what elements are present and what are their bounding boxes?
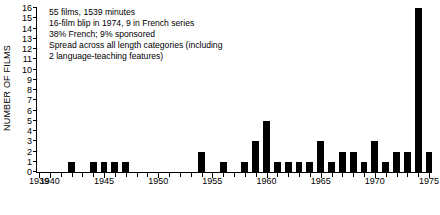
x-axis-tick-label: 1975 <box>419 176 439 186</box>
bar <box>252 141 259 172</box>
x-axis-tick-labels: 193919401945195019551960196519701975 <box>36 176 436 190</box>
bar <box>426 152 433 173</box>
bar <box>306 162 313 172</box>
y-axis-tick-mark <box>33 17 37 18</box>
y-axis-tick-label: 14 <box>14 24 32 33</box>
y-axis-tick-label: 10 <box>14 65 32 74</box>
y-axis-tick-label: 7 <box>14 96 32 105</box>
bar <box>122 162 129 172</box>
bar <box>404 152 411 173</box>
y-axis-tick-mark <box>33 151 37 152</box>
annotation-text-block: 55 films, 1539 minutes16-film blip in 19… <box>49 7 299 62</box>
bar <box>285 162 292 172</box>
y-axis-tick-label: 6 <box>14 106 32 115</box>
y-axis-tick-labels: 161514131211109876543210 <box>14 8 32 173</box>
bar <box>328 162 335 172</box>
y-axis-tick-label: 15 <box>14 14 32 23</box>
y-axis-tick-mark <box>33 7 37 8</box>
y-axis-tick-label: 13 <box>14 34 32 43</box>
bar <box>274 162 281 172</box>
x-axis-tick-label: 1965 <box>311 176 331 186</box>
annotation-line: Spread across all length categories (inc… <box>49 40 299 51</box>
bar <box>220 162 227 172</box>
y-axis-tick-mark <box>33 79 37 80</box>
bar <box>263 121 270 172</box>
bar <box>101 162 108 172</box>
annotation-line: 38% French; 9% sponsored <box>49 29 299 40</box>
y-axis-tick-label: 11 <box>14 55 32 64</box>
y-axis-tick-label: 3 <box>14 137 32 146</box>
bar <box>111 162 118 172</box>
y-axis-tick-label: 5 <box>14 116 32 125</box>
y-axis-tick-mark <box>33 120 37 121</box>
y-axis-tick-mark <box>33 28 37 29</box>
annotation-line: 55 films, 1539 minutes <box>49 7 299 18</box>
bar <box>361 162 368 172</box>
y-axis-tick-mark <box>33 99 37 100</box>
bar <box>198 152 205 173</box>
y-axis-title-label: NUMBER OF FILMS <box>2 44 12 130</box>
x-axis-tick-label: 1950 <box>148 176 168 186</box>
y-axis-tick-mark <box>33 69 37 70</box>
y-axis-title: NUMBER OF FILMS <box>0 0 14 175</box>
x-axis-tick-label: 1970 <box>365 176 385 186</box>
y-axis-tick-mark <box>33 161 37 162</box>
x-axis-tick-label: 1940 <box>40 176 60 186</box>
bar <box>393 152 400 173</box>
bar <box>350 152 357 173</box>
bar <box>371 141 378 172</box>
bar <box>296 162 303 172</box>
x-axis-tick-label: 1955 <box>202 176 222 186</box>
x-axis-tick-label: 1960 <box>256 176 276 186</box>
bar <box>68 162 75 172</box>
bar <box>415 8 422 172</box>
y-axis-tick-mark <box>33 38 37 39</box>
annotation-line: 16-film blip in 1974, 9 in French series <box>49 18 299 29</box>
y-axis-tick-mark <box>33 48 37 49</box>
bar-chart-figure: NUMBER OF FILMS 161514131211109876543210… <box>0 0 440 215</box>
y-axis-line <box>36 8 37 173</box>
bar <box>90 162 97 172</box>
y-axis-tick-label: 9 <box>14 75 32 84</box>
bar <box>382 162 389 172</box>
y-axis-tick-mark <box>33 171 37 172</box>
bar <box>241 162 248 172</box>
annotation-line: 2 language-teaching features) <box>49 51 299 62</box>
y-axis-tick-label: 16 <box>14 4 32 13</box>
y-axis-tick-mark <box>33 130 37 131</box>
x-axis-tick-label: 1945 <box>94 176 114 186</box>
y-axis-tick-label: 2 <box>14 147 32 156</box>
y-axis-tick-mark <box>33 58 37 59</box>
y-axis-tick-label: 12 <box>14 45 32 54</box>
y-axis-tick-label: 8 <box>14 86 32 95</box>
y-axis-tick-mark <box>33 89 37 90</box>
bar <box>317 141 324 172</box>
bar <box>339 152 346 173</box>
y-axis-tick-label: 1 <box>14 157 32 166</box>
y-axis-tick-mark <box>33 110 37 111</box>
y-axis-tick-label: 4 <box>14 127 32 136</box>
y-axis-tick-mark <box>33 140 37 141</box>
